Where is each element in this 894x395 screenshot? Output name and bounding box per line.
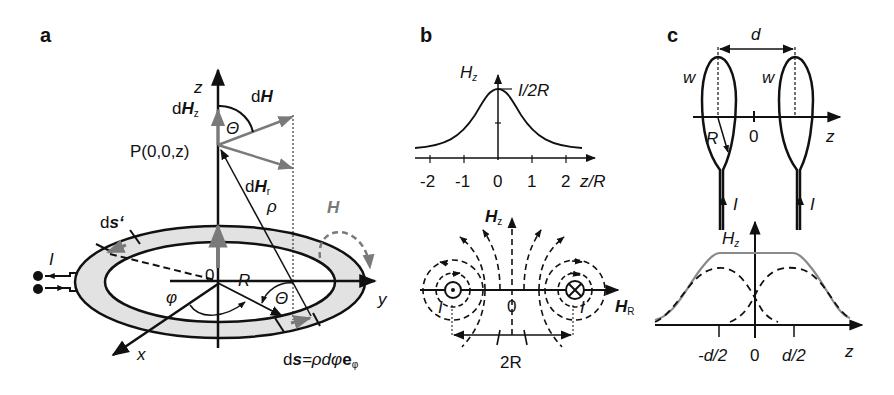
- panel-c: c d w w R 0 z I I Hz: [655, 24, 862, 365]
- panel-label-b: b: [420, 24, 432, 46]
- separation-label: d: [751, 25, 761, 44]
- tick-label: 0: [493, 172, 502, 191]
- tick-label: 1: [527, 172, 536, 191]
- axial-field-chart: Hz I/2R -2 -1 0 1 2 z/R: [415, 63, 606, 191]
- H-field-label: H: [327, 198, 340, 217]
- panel-label-a: a: [40, 24, 52, 46]
- winding-left-label: w: [683, 68, 697, 87]
- ds-prime-label: ds‘: [100, 213, 124, 232]
- x-axis-label: x: [136, 345, 146, 364]
- dHr-label: dHr: [245, 177, 271, 197]
- z-axis-label: z: [193, 78, 203, 97]
- chart-b-y-label: Hz: [460, 63, 477, 83]
- field-Hz-label: Hz: [485, 207, 502, 227]
- dH-label: dH: [251, 87, 273, 106]
- field-origin-label: 0: [507, 297, 516, 316]
- phi-label: φ: [166, 288, 177, 307]
- chart-b-x-label: z/R: [579, 172, 606, 191]
- field-HR-label: HR: [615, 297, 635, 317]
- chart-b-peak-label: I/2R: [518, 81, 549, 100]
- theta-bottom-label: Θ: [275, 289, 288, 308]
- panel-a: a I z y x 0: [33, 24, 388, 370]
- tick-label: -1: [455, 172, 470, 191]
- tick-label: 0: [750, 346, 759, 365]
- radius-label: R: [238, 271, 250, 290]
- origin-label: 0: [205, 266, 214, 285]
- theta-top-label: Θ: [226, 119, 239, 138]
- y-axis-label: y: [377, 290, 388, 309]
- coil-1-curve: [655, 268, 778, 322]
- current-left-label: I: [438, 298, 443, 317]
- lead-wires: [33, 271, 78, 294]
- combined-field-chart: Hz -d/2 0 d/2 z: [655, 222, 862, 365]
- ds-prime-radius: [110, 254, 215, 280]
- coil-radius-label: R: [706, 129, 718, 148]
- sum-curve: [655, 253, 850, 320]
- current-in-icon: [566, 281, 584, 299]
- chart-c-x-label: z: [844, 342, 854, 361]
- coil-current-right-label: I: [810, 195, 815, 214]
- tick-label: -d/2: [698, 346, 728, 365]
- rho-label: ρ: [266, 197, 277, 216]
- tick-label: d/2: [782, 346, 806, 365]
- panel-b: b Hz I/2R -2 -1 0 1 2 z/R: [415, 24, 635, 372]
- dHz-label: dHz: [172, 99, 199, 119]
- coil-current-left-label: I: [733, 195, 738, 214]
- diameter-label: 2R: [500, 353, 522, 372]
- coil-z-label: z: [825, 127, 835, 146]
- current-right-label: I: [580, 298, 585, 317]
- panel-label-c: c: [667, 24, 678, 46]
- coil-radius-arrow: [718, 118, 728, 152]
- current-label: I: [49, 250, 54, 269]
- coil-origin-label: 0: [749, 127, 758, 146]
- tick-label: -2: [420, 172, 435, 191]
- coil-2-curve: [730, 268, 850, 322]
- point-P-label: P(0,0,z): [130, 142, 190, 161]
- current-out-dot-icon: [451, 288, 455, 292]
- tick-label: 2: [561, 172, 570, 191]
- ds-equation: ds=ρdφeφ: [283, 350, 359, 370]
- chart-c-y-label: Hz: [722, 229, 739, 249]
- winding-right-label: w: [762, 68, 776, 87]
- figure-canvas: a I z y x 0: [0, 0, 894, 395]
